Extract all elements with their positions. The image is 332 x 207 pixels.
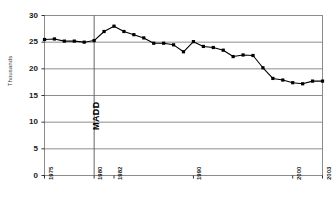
data-point-marker [122, 30, 125, 33]
y-axis-tick-label: 25 [16, 37, 38, 46]
data-point-marker [152, 42, 155, 45]
data-point-marker [93, 39, 96, 42]
x-axis-tick-label: 1990 [196, 166, 202, 179]
y-axis-tick-label: 15 [16, 91, 38, 100]
y-axis-tick-label: 10 [16, 117, 38, 126]
data-point-marker [162, 42, 165, 45]
data-point-marker [192, 40, 195, 43]
x-axis-tick-label: 1975 [48, 166, 54, 179]
data-point-marker [73, 40, 76, 43]
data-point-marker [202, 45, 205, 48]
x-axis-tick-label: 1982 [117, 166, 123, 179]
data-point-marker [212, 46, 215, 49]
x-axis-tick-label: 2003 [326, 166, 332, 179]
data-point-marker [112, 25, 115, 28]
data-point-marker [83, 41, 86, 44]
madd-annotation-label: MADD [91, 101, 101, 130]
data-point-marker [232, 55, 235, 58]
data-point-marker [53, 37, 56, 40]
y-axis-tick-label: 5 [16, 144, 38, 153]
data-point-marker [102, 30, 105, 33]
data-point-marker [291, 81, 294, 84]
data-point-marker [261, 66, 264, 69]
data-point-marker [222, 49, 225, 52]
data-point-marker [182, 50, 185, 53]
data-point-marker [251, 54, 254, 57]
data-point-marker [281, 78, 284, 81]
data-point-marker [43, 38, 46, 41]
data-point-marker [63, 40, 66, 43]
data-point-marker [241, 53, 244, 56]
data-point-marker [301, 82, 304, 85]
y-axis-tick-label: 30 [16, 11, 38, 20]
x-axis-tick-label: 2000 [296, 166, 302, 179]
data-point-marker [311, 80, 314, 83]
data-point-marker [271, 77, 274, 80]
y-axis-tick-label: 0 [16, 171, 38, 180]
data-point-marker [142, 36, 145, 39]
data-point-marker [172, 43, 175, 46]
y-axis-tick-label: 20 [16, 64, 38, 73]
x-axis-tick-label: 1980 [97, 166, 103, 179]
data-point-marker [132, 33, 135, 36]
data-point-marker [321, 80, 324, 83]
